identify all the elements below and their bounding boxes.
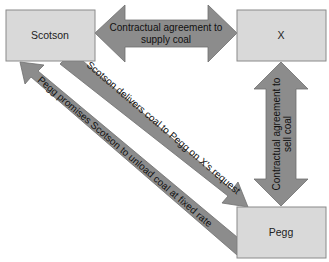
label-supply-line2: supply coal [141, 34, 191, 45]
arrow-scotson-to-pegg: Scotson delivers coal to Pegg on X's req… [60, 59, 248, 207]
node-scotson: Scotson [6, 10, 95, 61]
node-scotson-label: Scotson [31, 29, 69, 41]
contract-diagram: Scotson delivers coal to Pegg on X's req… [0, 0, 329, 262]
node-x-label: X [277, 29, 284, 41]
label-sell-line1: Contractual agreement to [271, 77, 282, 190]
label-sell-line2: sell coal [282, 116, 293, 152]
node-pegg-label: Pegg [269, 226, 294, 238]
node-pegg: Pegg [237, 207, 326, 258]
node-x: X [237, 10, 326, 61]
arrow-scotson-x: Contractual agreement to supply coal [95, 5, 237, 62]
arrow-x-pegg: Contractual agreement to sell coal [254, 62, 308, 206]
label-supply-line1: Contractual agreement to [110, 22, 223, 33]
